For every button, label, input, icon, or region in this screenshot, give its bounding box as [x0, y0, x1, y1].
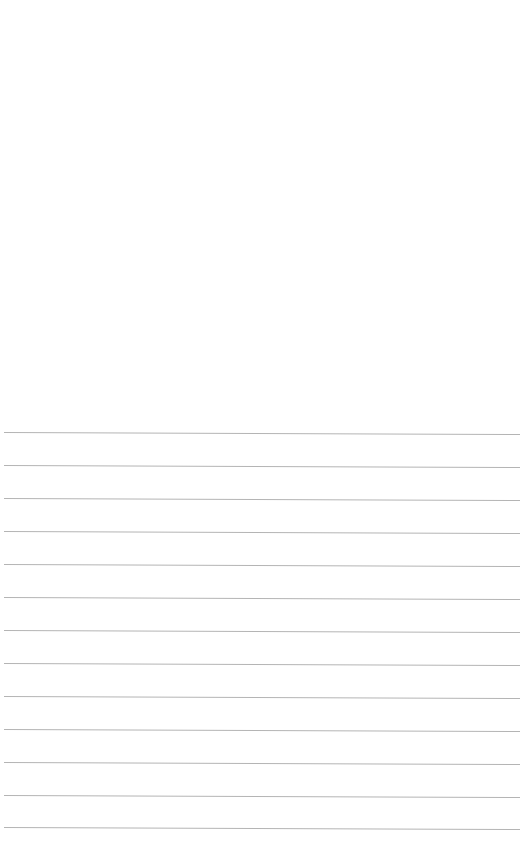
ruled-line — [4, 564, 520, 567]
ruled-lines — [0, 0, 523, 866]
ruled-line — [4, 795, 520, 798]
ruled-line — [4, 696, 520, 699]
ruled-line — [4, 465, 520, 468]
ruled-line — [4, 498, 520, 501]
lined-page — [0, 0, 523, 866]
ruled-line — [4, 827, 520, 830]
ruled-line — [4, 432, 520, 435]
ruled-line — [4, 597, 520, 600]
ruled-line — [4, 531, 520, 534]
ruled-line — [4, 663, 520, 666]
ruled-line — [4, 729, 520, 732]
ruled-line — [4, 630, 520, 633]
ruled-line — [4, 762, 520, 765]
